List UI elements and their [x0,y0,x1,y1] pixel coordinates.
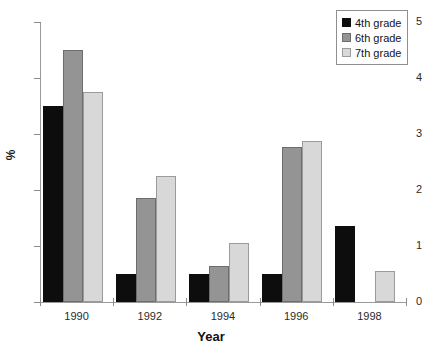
bar-1998-7th-grade [375,271,395,302]
bar-chart: 012345 % 19901992199419961998 Year 4th g… [0,0,422,351]
x-tick-label: 1996 [266,310,326,323]
bar-1990-4th-grade [43,106,63,302]
legend-swatch-icon [342,18,351,27]
bar-1998-4th-grade [335,226,355,302]
legend-label: 6th grade [355,32,401,44]
bar-1992-6th-grade [136,198,156,302]
bar-1992-4th-grade [116,274,136,302]
legend-label: 7th grade [355,47,401,59]
bar-1992-7th-grade [156,176,176,302]
bar-1990-6th-grade [63,50,83,302]
legend-label: 4th grade [355,17,401,29]
legend-swatch-icon [342,33,351,42]
x-tick-label: 1994 [193,310,253,323]
legend: 4th grade6th grade7th grade [336,10,408,65]
bar-1994-6th-grade [209,266,229,302]
bar-1990-7th-grade [83,92,103,302]
bar-1994-7th-grade [229,243,249,302]
legend-entry-7th-grade: 7th grade [342,45,401,60]
x-tick-mark [406,298,407,306]
bar-1996-7th-grade [302,141,322,302]
x-tick-label: 1992 [120,310,180,323]
legend-swatch-icon [342,48,351,57]
bar-1994-4th-grade [189,274,209,302]
bar-1996-6th-grade [282,147,302,302]
x-tick-label: 1990 [47,310,107,323]
x-tick-label: 1998 [339,310,399,323]
x-axis-line [40,302,406,303]
legend-entry-4th-grade: 4th grade [342,15,401,30]
y-axis-title: % [4,150,18,161]
x-axis-title: Year [0,329,422,344]
bar-1996-4th-grade [262,274,282,302]
legend-entry-6th-grade: 6th grade [342,30,401,45]
